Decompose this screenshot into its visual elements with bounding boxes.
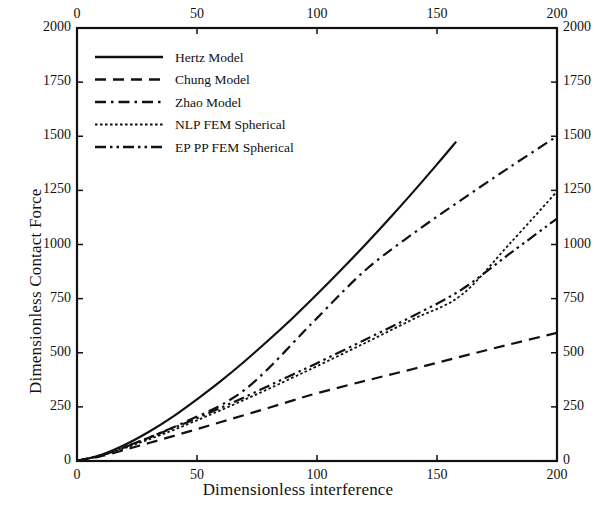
x-tick-label-bottom: 50: [172, 467, 222, 483]
legend-label: EP PP FEM Spherical: [175, 140, 294, 155]
plot-frame: [77, 28, 557, 461]
y-tick-label-left: 1000: [29, 236, 71, 252]
x-tick-label-top: 100: [292, 6, 342, 22]
x-tick-label-bottom: 150: [412, 467, 462, 483]
x-axis-title: Dimensionless interference: [0, 480, 596, 500]
y-tick-label-left: 500: [29, 344, 71, 360]
legend-label: Zhao Model: [175, 95, 242, 110]
series-line: [77, 191, 557, 461]
y-tick-label-right: 0: [563, 452, 570, 468]
y-tick-label-left: 1250: [29, 181, 71, 197]
y-tick-label-left: 1750: [29, 73, 71, 89]
y-tick-label-right: 2000: [563, 19, 591, 35]
x-tick-label-top: 150: [412, 6, 462, 22]
legend-label: Chung Model: [175, 72, 250, 87]
y-tick-label-right: 1000: [563, 236, 591, 252]
chart-figure: Hertz ModelChung ModelZhao ModelNLP FEM …: [0, 0, 596, 509]
y-tick-label-right: 1250: [563, 181, 591, 197]
series-line: [77, 333, 557, 461]
y-tick-label-left: 750: [29, 290, 71, 306]
y-tick-label-left: 2000: [29, 19, 71, 35]
series-layer: [77, 136, 557, 461]
y-tick-label-right: 500: [563, 344, 584, 360]
y-tick-label-left: 1500: [29, 127, 71, 143]
x-tick-label-bottom: 100: [292, 467, 342, 483]
series-line: [77, 142, 456, 461]
y-tick-label-right: 1750: [563, 73, 591, 89]
x-tick-label-bottom: 200: [532, 467, 582, 483]
series-line: [77, 219, 557, 461]
x-tick-label-top: 50: [172, 6, 222, 22]
chart-plot-area: Hertz ModelChung ModelZhao ModelNLP FEM …: [0, 0, 596, 509]
legend-label: Hertz Model: [175, 50, 244, 65]
x-tick-label-bottom: 0: [52, 467, 102, 483]
y-tick-label-left: 250: [29, 398, 71, 414]
legend-label: NLP FEM Spherical: [175, 117, 286, 132]
y-tick-label-right: 750: [563, 290, 584, 306]
y-tick-label-left: 0: [29, 452, 71, 468]
series-line: [77, 136, 557, 461]
y-tick-label-right: 250: [563, 398, 584, 414]
y-tick-label-right: 1500: [563, 127, 591, 143]
